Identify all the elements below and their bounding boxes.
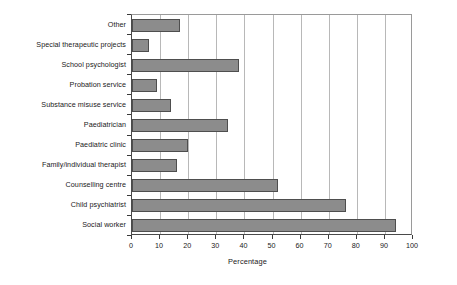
bar[interactable] (132, 159, 177, 172)
x-tick-label-60: 60 (296, 241, 304, 250)
category-label: Family/individual therapist (0, 160, 126, 169)
bar[interactable] (132, 179, 278, 192)
bar-row (132, 216, 413, 236)
category-label: Probation service (0, 80, 126, 89)
x-tick-label-100: 100 (406, 241, 418, 250)
x-tick-mark-30 (215, 235, 216, 239)
category-label: School psychologist (0, 60, 126, 69)
y-tick-mark (127, 14, 131, 15)
y-tick-mark (127, 215, 131, 216)
y-tick-mark (127, 114, 131, 115)
y-tick-mark (127, 175, 131, 176)
x-tick-label-0: 0 (129, 241, 133, 250)
y-tick-mark (127, 54, 131, 55)
category-label: Other (0, 20, 126, 29)
bar[interactable] (132, 59, 239, 72)
y-tick-mark (127, 135, 131, 136)
x-tick-mark-70 (328, 235, 329, 239)
bar[interactable] (132, 199, 346, 212)
y-tick-mark (127, 34, 131, 35)
bar-series (132, 15, 411, 234)
x-axis-title: Percentage (0, 257, 457, 266)
category-label: Social worker (0, 220, 126, 229)
bar[interactable] (132, 99, 171, 112)
bar[interactable] (132, 119, 228, 132)
y-tick-mark (127, 235, 131, 236)
x-tick-mark-90 (384, 235, 385, 239)
x-tick-mark-20 (187, 235, 188, 239)
category-label: Paediatric clinic (0, 140, 126, 149)
bar-row (132, 35, 413, 55)
x-tick-mark-10 (159, 235, 160, 239)
x-tick-label-50: 50 (268, 241, 276, 250)
bar-row (132, 176, 413, 196)
bar-row (132, 75, 413, 95)
x-tick-label-90: 90 (380, 241, 388, 250)
x-axis-title-text: Percentage (228, 257, 267, 266)
x-tick-label-30: 30 (211, 241, 219, 250)
bar-row (132, 15, 413, 35)
y-tick-mark (127, 74, 131, 75)
x-tick-mark-50 (272, 235, 273, 239)
bar-row (132, 196, 413, 216)
x-tick-label-40: 40 (239, 241, 247, 250)
x-tick-mark-0 (131, 235, 132, 239)
bar-row (132, 156, 413, 176)
x-tick-label-70: 70 (324, 241, 332, 250)
x-tick-mark-40 (243, 235, 244, 239)
plot-area (131, 14, 412, 235)
category-label: Special therapeutic projects (0, 40, 126, 49)
category-label: Paediatrician (0, 120, 126, 129)
category-label: Substance misuse service (0, 100, 126, 109)
chart-screenshot: OtherSpecial therapeutic projectsSchool … (0, 0, 457, 285)
x-tick-mark-80 (356, 235, 357, 239)
bar[interactable] (132, 79, 157, 92)
x-tick-label-10: 10 (155, 241, 163, 250)
y-tick-mark (127, 155, 131, 156)
bar[interactable] (132, 39, 149, 52)
category-label: Child psychiatrist (0, 200, 126, 209)
x-tick-label-80: 80 (352, 241, 360, 250)
bar[interactable] (132, 139, 188, 152)
bar-row (132, 115, 413, 135)
bar[interactable] (132, 19, 180, 32)
bar[interactable] (132, 219, 396, 232)
category-label: Counselling centre (0, 180, 126, 189)
x-tick-mark-100 (412, 235, 413, 239)
bar-row (132, 55, 413, 75)
y-tick-mark (127, 94, 131, 95)
x-tick-label-20: 20 (183, 241, 191, 250)
bar-row (132, 95, 413, 115)
x-axis-ticks: 0102030405060708090100 (131, 235, 412, 255)
bar-row (132, 136, 413, 156)
x-tick-mark-60 (300, 235, 301, 239)
y-tick-mark (127, 195, 131, 196)
category-axis-labels: OtherSpecial therapeutic projectsSchool … (0, 14, 126, 235)
